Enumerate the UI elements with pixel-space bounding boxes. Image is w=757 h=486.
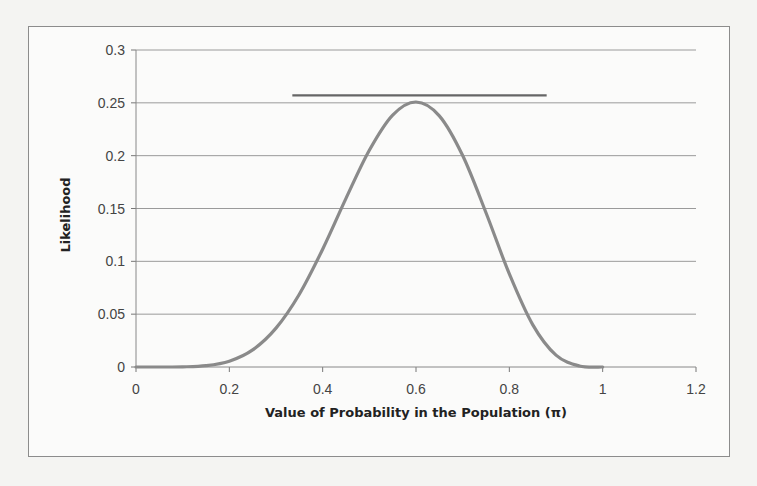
likelihood-chart: 00.050.10.150.20.250.3 00.20.40.60.811.2… bbox=[0, 0, 757, 486]
x-tick-label: 0.6 bbox=[406, 381, 426, 397]
likelihood-curve bbox=[136, 102, 603, 367]
y-tick-label: 0.3 bbox=[106, 42, 126, 58]
x-axis-title: Value of Probability in the Population (… bbox=[265, 405, 567, 420]
y-axis-tick-labels: 00.050.10.150.20.250.3 bbox=[98, 42, 125, 375]
x-tick-label: 0 bbox=[132, 381, 140, 397]
y-tick-label: 0 bbox=[117, 359, 125, 375]
x-tick-label: 0.8 bbox=[500, 381, 520, 397]
y-tick-label: 0.25 bbox=[98, 95, 125, 111]
x-axis-tick-labels: 00.20.40.60.811.2 bbox=[132, 381, 706, 397]
x-tick-label: 0.4 bbox=[313, 381, 333, 397]
y-tick-label: 0.1 bbox=[106, 253, 126, 269]
x-tick-label: 1.2 bbox=[686, 381, 706, 397]
x-tick-label: 0.2 bbox=[220, 381, 240, 397]
gridlines bbox=[136, 50, 696, 314]
x-tick-label: 1 bbox=[599, 381, 607, 397]
y-tick-label: 0.15 bbox=[98, 201, 125, 217]
y-tick-label: 0.2 bbox=[106, 148, 126, 164]
y-axis-title: Likelihood bbox=[58, 177, 73, 252]
axes bbox=[131, 50, 696, 372]
y-tick-label: 0.05 bbox=[98, 306, 125, 322]
